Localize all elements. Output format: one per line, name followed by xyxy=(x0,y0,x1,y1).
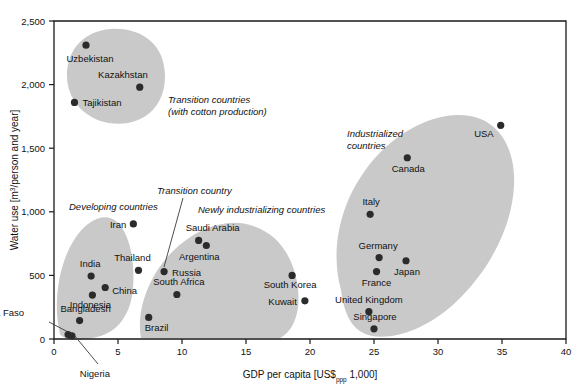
data-point-marker[interactable] xyxy=(160,268,167,275)
data-point-marker[interactable] xyxy=(82,42,89,49)
data-point-marker[interactable] xyxy=(288,272,295,279)
data-point-label: Saudi Arabia xyxy=(186,222,241,233)
data-point-label: Tajikistan xyxy=(82,97,121,108)
data-point-marker[interactable] xyxy=(370,325,377,332)
y-tick-label-1000: 1,000 xyxy=(21,206,45,217)
data-point-label: Germany xyxy=(359,240,398,251)
data-point-marker[interactable] xyxy=(68,332,75,339)
y-tick-label-2000: 2,000 xyxy=(21,79,45,90)
x-tick-label-15: 15 xyxy=(241,346,252,357)
data-point-marker[interactable] xyxy=(135,267,142,274)
chart-canvas: 05001,0001,5002,0002,500 051015202530354… xyxy=(0,0,579,388)
cluster-label-newly-industrializing: Newly industrializing countries xyxy=(198,204,325,215)
data-point-marker[interactable] xyxy=(76,317,83,324)
data-point-marker[interactable] xyxy=(173,291,180,298)
data-point-label: Brazil xyxy=(145,322,169,333)
data-point-marker[interactable] xyxy=(88,272,95,279)
data-point-label: South Korea xyxy=(264,279,318,290)
y-tick-label-500: 500 xyxy=(29,270,45,281)
cluster-label-transition-cotton: Transition countries(with cotton product… xyxy=(168,94,267,117)
cluster-blob-developing xyxy=(57,217,134,339)
y-tick-label-0: 0 xyxy=(40,334,45,345)
y-axis-ticks xyxy=(49,21,54,339)
data-point-label: Burkina Faso xyxy=(0,307,24,318)
data-point-marker[interactable] xyxy=(195,237,202,244)
y-axis-tick-labels: 05001,0001,5002,0002,500 xyxy=(21,16,45,345)
data-point-label: France xyxy=(362,277,392,288)
data-point-marker[interactable] xyxy=(402,257,409,264)
x-tick-label-40: 40 xyxy=(561,346,572,357)
data-point-label: Thailand xyxy=(114,252,150,263)
data-point-label: Kazakhstan xyxy=(98,69,148,80)
data-point-marker[interactable] xyxy=(373,268,380,275)
data-point-group: Iran xyxy=(110,219,137,230)
data-point-label: Singapore xyxy=(353,311,396,322)
x-tick-label-25: 25 xyxy=(369,346,380,357)
data-point-label: Kuwait xyxy=(268,296,297,307)
data-point-label: United Kingdom xyxy=(335,294,403,305)
x-axis-title: GDP per capita [US$ppp 1,000] xyxy=(243,369,378,384)
x-tick-label-20: 20 xyxy=(305,346,316,357)
x-tick-label-10: 10 xyxy=(177,346,188,357)
data-point-label: Canada xyxy=(392,163,426,174)
x-axis-ticks xyxy=(54,339,566,344)
x-tick-label-0: 0 xyxy=(51,346,56,357)
data-point-marker[interactable] xyxy=(89,292,96,299)
x-axis-tick-labels: 0510152025303540 xyxy=(51,346,571,357)
data-point-group: Kuwait xyxy=(268,296,308,307)
data-point-label: Argentina xyxy=(179,251,220,262)
data-point-label: Iran xyxy=(110,219,126,230)
data-point-label: South Africa xyxy=(153,276,205,287)
cluster-label-developing: Developing countries xyxy=(69,201,158,212)
data-point-marker[interactable] xyxy=(497,122,504,129)
data-point-marker[interactable] xyxy=(130,220,137,227)
data-point-marker[interactable] xyxy=(376,254,383,261)
data-point-marker[interactable] xyxy=(203,242,210,249)
annotation-labels-layer: Transition country xyxy=(157,185,233,196)
data-point-label: India xyxy=(80,258,101,269)
data-point-marker[interactable] xyxy=(145,314,152,321)
data-point-label: Bangladesh xyxy=(61,303,111,314)
data-point-marker[interactable] xyxy=(102,284,109,291)
data-point-label: Italy xyxy=(362,196,380,207)
y-tick-label-2500: 2,500 xyxy=(21,16,45,27)
x-tick-label-5: 5 xyxy=(115,346,120,357)
x-tick-label-35: 35 xyxy=(497,346,508,357)
x-tick-label-30: 30 xyxy=(433,346,444,357)
data-point-label: USA xyxy=(474,128,494,139)
data-point-label: Nigeria xyxy=(80,368,111,379)
data-point-marker[interactable] xyxy=(136,84,143,91)
data-point-label: Japan xyxy=(394,266,420,277)
y-axis-title: Water use [m3/person and year] xyxy=(9,110,21,251)
annotation-label-transition-country: Transition country xyxy=(157,185,233,196)
water-use-gdp-scatter-chart: 05001,0001,5002,0002,500 051015202530354… xyxy=(0,0,579,388)
data-point-marker[interactable] xyxy=(367,211,374,218)
data-point-marker[interactable] xyxy=(301,297,308,304)
data-point-label: China xyxy=(112,285,138,296)
data-point-marker[interactable] xyxy=(71,99,78,106)
y-tick-label-1500: 1,500 xyxy=(21,143,45,154)
data-point-label: Uzbekistan xyxy=(67,53,114,64)
data-point-marker[interactable] xyxy=(404,154,411,161)
